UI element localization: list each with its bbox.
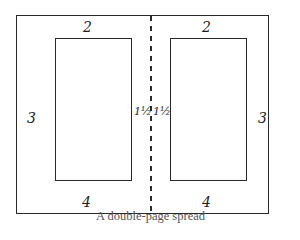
left-page-text-block — [55, 38, 132, 181]
double-page-spread-diagram: 2 3 1½ 4 2 3 1½ 4 A double-page spread — [0, 0, 300, 240]
right-inner-margin-label: 1½ — [153, 106, 171, 117]
left-top-margin-label: 2 — [83, 20, 92, 34]
diagram-caption: A double-page spread — [96, 210, 205, 223]
right-outer-margin-label: 3 — [258, 111, 267, 125]
left-outer-margin-label: 3 — [27, 111, 36, 125]
right-top-margin-label: 2 — [202, 20, 211, 34]
left-bottom-margin-label: 4 — [82, 195, 91, 209]
left-inner-margin-label: 1½ — [134, 106, 152, 117]
right-bottom-margin-label: 4 — [202, 195, 211, 209]
right-page-text-block — [170, 38, 247, 181]
